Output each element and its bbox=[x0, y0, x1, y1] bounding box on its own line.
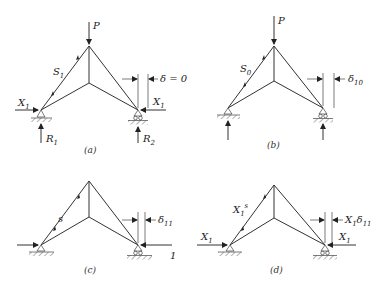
member-force-label: X1s bbox=[232, 202, 249, 218]
displacement-indicator: δ11 bbox=[122, 212, 173, 243]
truss-b bbox=[228, 46, 323, 108]
left-force-label: X1 bbox=[17, 97, 30, 111]
truss-a bbox=[41, 46, 138, 110]
roller-support-icon bbox=[127, 245, 152, 260]
pin-support-icon bbox=[29, 245, 54, 256]
displacement-label: δ = 0 bbox=[160, 73, 188, 84]
caption-b: (b) bbox=[267, 140, 280, 150]
displacement-label: X1δ11 bbox=[344, 214, 372, 228]
load-label: P bbox=[92, 20, 100, 31]
panel-c: s 1 δ11 (c) bbox=[17, 181, 176, 275]
displacement-label: δ11 bbox=[158, 214, 173, 228]
pin-support-icon bbox=[217, 108, 240, 119]
load-label: P bbox=[277, 15, 285, 26]
caption-d: (d) bbox=[270, 265, 283, 275]
right-force-label: X1 bbox=[152, 96, 165, 110]
roller-support-icon bbox=[313, 245, 337, 260]
truss-c bbox=[41, 181, 138, 245]
member-force-label: S0 bbox=[240, 63, 252, 77]
caption-c: (c) bbox=[84, 265, 97, 275]
roller-support-icon bbox=[128, 110, 148, 125]
right-force-label: X1 bbox=[338, 231, 351, 245]
panel-d: X1s X1 X1 X1δ11 (d) bbox=[197, 185, 372, 275]
member-force-label: S1 bbox=[53, 66, 64, 80]
roller-support-icon bbox=[313, 108, 333, 123]
reaction-right-label: R2 bbox=[142, 133, 156, 147]
panel-b: P S0 δ10 (b) bbox=[217, 15, 363, 150]
unit-force-label: 1 bbox=[170, 250, 176, 261]
pin-support-icon bbox=[31, 110, 52, 122]
reaction-left-label: R1 bbox=[45, 133, 58, 147]
pin-support-icon bbox=[218, 245, 242, 256]
left-force-label: X1 bbox=[200, 231, 213, 245]
panel-a: P S1 X1 R1 X1 R2 bbox=[15, 20, 188, 155]
truss-diagram: P S1 X1 R1 X1 R2 bbox=[0, 0, 381, 286]
caption-a: (a) bbox=[84, 145, 97, 155]
displacement-indicator: δ10 bbox=[307, 73, 363, 108]
displacement-label: δ10 bbox=[348, 73, 363, 87]
member-force-label: s bbox=[58, 213, 63, 224]
